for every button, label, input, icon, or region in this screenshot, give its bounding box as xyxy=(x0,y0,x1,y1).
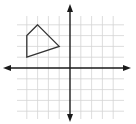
x-axis-right-arrow-icon xyxy=(123,65,131,71)
quadrilateral-shape xyxy=(27,25,59,57)
x-axis-left-arrow-icon xyxy=(3,65,11,71)
y-axis-up-arrow-icon xyxy=(67,4,73,12)
coordinate-plane xyxy=(0,0,136,124)
y-axis-down-arrow-icon xyxy=(67,114,73,122)
axes xyxy=(3,4,131,122)
